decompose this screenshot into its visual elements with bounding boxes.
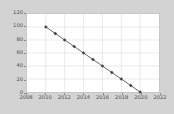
x-tick-mark [83,93,84,95]
y-tick-label: 120 [0,10,23,15]
y-tick-mark [24,13,26,14]
x-tick-label: 2022 [153,95,166,100]
y-tick-label: 80 [0,37,23,42]
y-tick-label: 40 [0,64,23,69]
x-tick-mark [160,93,161,95]
x-tick-mark [26,93,27,95]
x-tick-label: 2012 [58,95,71,100]
x-tick-mark [45,93,46,95]
y-tick-label: 100 [0,24,23,29]
chart-figure: 0204060801001202008201020122014201620182… [0,0,174,114]
y-tick-mark [24,40,26,41]
x-tick-label: 2010 [39,95,52,100]
x-tick-label: 2016 [96,95,109,100]
x-tick-mark [122,93,123,95]
x-tick-mark [64,93,65,95]
y-tick-mark [24,66,26,67]
y-tick-label: 20 [0,77,23,82]
y-tick-label: 60 [0,50,23,55]
x-tick-mark [103,93,104,95]
y-tick-mark [24,26,26,27]
line-series [27,14,159,92]
plot-area [26,13,160,93]
y-tick-mark [24,80,26,81]
x-tick-label: 2014 [77,95,90,100]
x-tick-label: 2020 [134,95,147,100]
x-tick-mark [141,93,142,95]
x-tick-label: 2018 [115,95,128,100]
y-tick-mark [24,53,26,54]
x-tick-label: 2008 [19,95,32,100]
